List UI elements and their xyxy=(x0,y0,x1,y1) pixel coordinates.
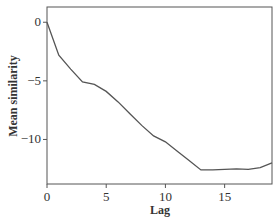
y-tick-label: −5 xyxy=(27,73,41,88)
data-line xyxy=(47,22,272,170)
x-tick-label: 5 xyxy=(103,189,110,204)
x-tick-label: 15 xyxy=(218,189,231,204)
y-tick-label: −10 xyxy=(21,131,41,146)
line-chart: 0−5−10 051015 Lag Mean similarity xyxy=(0,0,277,224)
plot-frame xyxy=(47,7,272,184)
y-axis-ticks: 0−5−10 xyxy=(21,14,47,146)
x-axis-ticks: 051015 xyxy=(44,184,231,204)
x-axis-title: Lag xyxy=(150,203,170,217)
y-tick-label: 0 xyxy=(35,14,42,29)
x-tick-label: 10 xyxy=(159,189,172,204)
y-axis-title: Mean similarity xyxy=(6,55,20,137)
x-tick-label: 0 xyxy=(44,189,51,204)
